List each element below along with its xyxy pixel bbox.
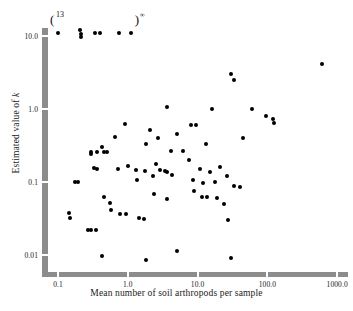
y-axis-bar — [42, 28, 48, 277]
data-point — [229, 256, 233, 260]
data-point — [165, 197, 169, 201]
data-point — [205, 195, 209, 199]
data-point — [156, 136, 160, 140]
data-point — [198, 167, 202, 171]
scatter-plot-figure: Estimated value of k Mean number of soil… — [0, 0, 353, 311]
x-axis-tick-label: 0.1 — [53, 280, 63, 289]
data-point — [108, 201, 112, 205]
data-point — [191, 178, 195, 182]
x-axis-tick — [336, 272, 338, 277]
data-point — [56, 31, 60, 35]
data-point — [165, 170, 169, 174]
data-point — [102, 195, 106, 199]
data-point — [124, 212, 128, 216]
data-point — [68, 216, 72, 220]
y-axis-tick — [42, 35, 48, 37]
data-point — [76, 180, 80, 184]
data-point — [225, 174, 229, 178]
data-point — [200, 195, 204, 199]
data-point — [232, 184, 236, 188]
x-axis-tick — [57, 272, 59, 277]
infinity-annotation: ∞ — [140, 11, 145, 19]
data-point — [152, 192, 156, 196]
data-point — [181, 149, 185, 153]
data-point — [95, 150, 99, 154]
data-point — [109, 208, 113, 212]
data-point — [241, 136, 245, 140]
data-point — [126, 164, 130, 168]
data-point — [137, 216, 141, 220]
data-point — [158, 168, 162, 172]
data-point — [117, 31, 121, 35]
data-point — [94, 228, 98, 232]
x-axis-tick — [127, 272, 129, 277]
data-point — [135, 178, 139, 182]
data-point — [93, 31, 97, 35]
data-point — [151, 174, 155, 178]
data-point — [204, 142, 208, 146]
data-point — [154, 162, 158, 166]
y-axis-title-symbol: k — [11, 93, 21, 97]
data-point — [232, 78, 236, 82]
data-point — [175, 132, 179, 136]
data-point — [67, 211, 71, 215]
data-point — [222, 202, 226, 206]
data-point — [89, 150, 93, 154]
data-point — [95, 167, 99, 171]
y-axis-tick — [42, 108, 48, 110]
data-point — [229, 72, 233, 76]
y-axis-tick-label: 0.01 — [8, 251, 38, 260]
data-point — [105, 150, 109, 154]
data-point — [144, 258, 148, 262]
data-point — [142, 217, 146, 221]
data-point — [250, 107, 254, 111]
data-point — [226, 218, 230, 222]
data-point — [143, 169, 147, 173]
data-point — [320, 62, 324, 66]
data-point — [210, 107, 214, 111]
data-point — [215, 196, 219, 200]
x-axis-tick — [197, 272, 199, 277]
data-point — [113, 135, 117, 139]
x-axis-tick — [266, 272, 268, 277]
data-point — [208, 170, 212, 174]
data-point — [165, 105, 169, 109]
data-point — [148, 128, 152, 132]
y-axis-title: Estimated value of k — [11, 53, 21, 213]
x-axis-tick-label: 1000.0 — [327, 280, 348, 289]
y-axis-tick — [42, 181, 48, 183]
close-paren-annotation: ) — [135, 13, 139, 26]
data-point — [189, 123, 193, 127]
y-axis-tick-label: 1.0 — [8, 105, 38, 114]
y-axis-tick-label: 0.1 — [8, 178, 38, 187]
x-axis-tick-label: 1.0 — [123, 280, 133, 289]
data-point — [79, 35, 83, 39]
data-point — [194, 123, 198, 127]
data-point — [98, 31, 102, 35]
data-point — [187, 158, 191, 162]
data-point — [175, 249, 179, 253]
data-point — [123, 122, 127, 126]
data-point — [201, 181, 205, 185]
data-point — [116, 167, 120, 171]
x-axis-bar — [42, 272, 348, 277]
x-axis-tick-label: 10.0 — [191, 280, 205, 289]
data-point — [238, 185, 242, 189]
data-point — [192, 189, 196, 193]
data-point — [118, 212, 122, 216]
x-axis-title: Mean number of soil arthropods per sampl… — [0, 288, 353, 298]
x-axis-tick-label: 100.0 — [259, 280, 276, 289]
data-point — [272, 121, 276, 125]
open-paren-annotation: ( — [50, 13, 54, 26]
data-point — [100, 145, 104, 149]
y-axis-tick-label: 10.0 — [8, 32, 38, 41]
data-point — [218, 165, 222, 169]
data-point — [129, 31, 133, 35]
offscale-count-annotation: 13 — [56, 10, 64, 19]
data-point — [144, 142, 148, 146]
data-point — [134, 168, 138, 172]
data-point — [100, 254, 104, 258]
data-point — [170, 173, 174, 177]
y-axis-tick — [42, 254, 48, 256]
data-point — [213, 180, 217, 184]
